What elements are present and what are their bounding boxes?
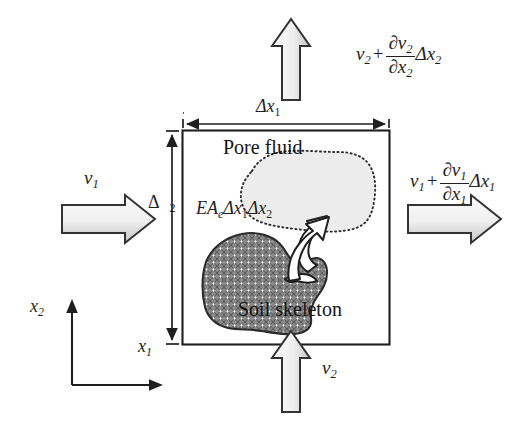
outflow-x1-v-sub: 1 [418, 180, 424, 194]
source-term-sub2: 2 [266, 207, 272, 221]
partial-symbol-num: ∂ [442, 159, 451, 180]
dimension-line-horizontal [183, 113, 389, 130]
den-x: x [452, 183, 460, 204]
outflow-x2-formula: v2+ ∂v2 ∂x2 Δx2 [356, 33, 441, 79]
soil-skeleton-label: Soil skeleton [238, 299, 342, 319]
soil-rev-diagram: v2+ ∂v2 ∂x2 Δx2 v1+ ∂v1 ∂x1 Δx1 v1 v2 Δx… [0, 0, 532, 430]
dimension-x1-delta: Δx [256, 96, 275, 116]
outflow-x2-denominator: ∂x2 [386, 56, 414, 80]
outflow-x2-tail-sub: 2 [435, 53, 441, 67]
outflow-arrow-top [272, 19, 310, 100]
dimension-x2-delta: Δ [148, 192, 160, 212]
outflow-x1-tail-sub: 1 [489, 180, 495, 194]
axis-label-x1: x1 [138, 337, 152, 359]
axis-x1-sub: 1 [146, 345, 152, 359]
den-x-sub: 1 [460, 193, 466, 207]
dimension-label-x2: Δ2 [148, 193, 176, 215]
dimension-x2-sub: 2 [170, 201, 176, 215]
source-term-delta1: Δx [223, 198, 242, 218]
den-x-sub: 2 [406, 66, 412, 80]
dimension-label-x1: Δx1 [256, 97, 281, 119]
inflow-x2-sub: 2 [330, 367, 336, 381]
axis-x1-x: x [138, 336, 146, 356]
den-x: x [398, 56, 406, 77]
partial-symbol-num: ∂ [388, 32, 397, 53]
outflow-x1-formula: v1+ ∂v1 ∂x1 Δx1 [410, 160, 495, 206]
outflow-x1-numerator: ∂v1 [440, 160, 468, 183]
axis-label-x2: x2 [30, 297, 44, 319]
partial-symbol-den: ∂ [388, 56, 397, 77]
outflow-x1-denominator: ∂x1 [440, 183, 468, 207]
source-term-label: EAeΔx1Δx2 [196, 199, 272, 221]
inflow-x2-label: v2 [322, 358, 337, 381]
partial-symbol-den: ∂ [442, 183, 451, 204]
axis-x2-sub: 2 [38, 305, 44, 319]
source-term-delta2: Δx [248, 198, 267, 218]
dimension-line-vertical [166, 131, 179, 344]
dimension-x1-sub: 1 [275, 105, 281, 119]
axis-x2-x: x [30, 296, 38, 316]
num-v: v [452, 159, 460, 180]
outflow-x1-plus: + [425, 170, 440, 191]
num-v-sub: 1 [460, 169, 466, 183]
inflow-x1-sub: 1 [92, 177, 98, 191]
outflow-x1-fraction: ∂v1 ∂x1 [440, 160, 468, 206]
outflow-x2-numerator: ∂v2 [386, 33, 414, 56]
source-term-E: E [196, 198, 207, 218]
outflow-x1-tail-delta: Δx [470, 170, 490, 191]
outflow-x2-plus: + [371, 43, 386, 64]
outflow-x2-tail-delta: Δx [416, 43, 436, 64]
outflow-x2-v-sub: 2 [364, 53, 370, 67]
outflow-x2-fraction: ∂v2 ∂x2 [386, 33, 414, 79]
inflow-x1-label: v1 [84, 168, 99, 191]
source-term-A: A [207, 198, 218, 218]
pore-fluid-label: Pore fluid [223, 137, 302, 157]
inflow-arrow-left [62, 195, 155, 243]
num-v-sub: 2 [406, 42, 412, 56]
num-v: v [398, 32, 406, 53]
